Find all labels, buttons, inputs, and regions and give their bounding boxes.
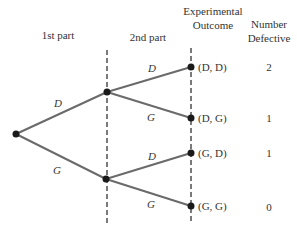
outcome-dd: (D, D) xyxy=(198,61,227,74)
label-second-upper-g: G xyxy=(147,111,155,123)
label-second-lower-g: G xyxy=(147,198,155,210)
node-g xyxy=(103,176,110,183)
label-first-g: G xyxy=(53,164,61,176)
defective-gd: 1 xyxy=(266,147,272,159)
leaf-gg xyxy=(188,203,195,210)
header-outcome-line1: Experimental xyxy=(183,5,242,17)
header-second-part: 2nd part xyxy=(130,31,166,43)
tree-diagram-svg: 1st part 2nd part Experimental Outcome N… xyxy=(0,0,297,236)
outcome-gg: (G, G) xyxy=(198,200,227,213)
branch-first-g xyxy=(16,134,106,179)
leaf-gd xyxy=(188,150,195,157)
node-d xyxy=(104,89,111,96)
outcome-dg: (D, G) xyxy=(198,112,227,125)
header-defective-line1: Number xyxy=(251,18,287,30)
root-node xyxy=(13,131,20,138)
defective-gg: 0 xyxy=(266,201,272,213)
defective-dd: 2 xyxy=(266,61,272,73)
label-second-upper-d: D xyxy=(147,62,156,74)
leaf-dd xyxy=(188,64,195,71)
label-first-d: D xyxy=(53,97,62,109)
tree-diagram: 1st part 2nd part Experimental Outcome N… xyxy=(0,0,297,236)
defective-dg: 1 xyxy=(266,112,272,124)
header-first-part: 1st part xyxy=(42,29,75,41)
outcome-gd: (G, D) xyxy=(198,147,227,160)
label-second-lower-d: D xyxy=(147,150,156,162)
header-defective-line2: Defective xyxy=(248,32,291,44)
header-outcome-line2: Outcome xyxy=(193,19,233,31)
leaf-dg xyxy=(188,115,195,122)
